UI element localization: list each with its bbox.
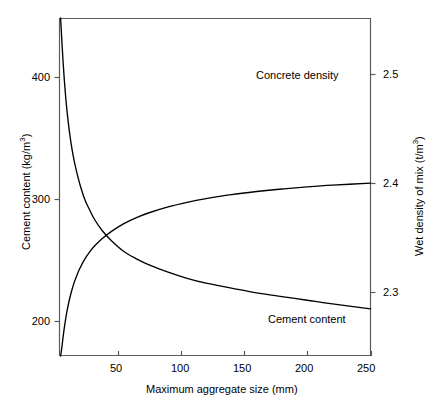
left-axis-ticks — [55, 78, 60, 322]
bottom-tick-label-100: 100 — [171, 362, 189, 374]
bottom-axis-title: Maximum aggregate size (mm) — [146, 383, 298, 395]
annotation-concrete-density: Concrete density — [256, 69, 339, 81]
bottom-tick-label-50: 50 — [110, 362, 122, 374]
bottom-tick-label-250: 250 — [357, 362, 375, 374]
chart-figure: 400 300 200 2.5 2.4 2.3 50 100 150 200 2… — [0, 0, 426, 410]
right-tick-label-2-5: 2.5 — [383, 68, 398, 80]
left-tick-label-400: 400 — [24, 71, 50, 83]
left-axis-title-text: Cement content (kg/m — [20, 142, 32, 250]
left-axis-title: Cement content (kg/m3) — [18, 134, 32, 250]
bottom-tick-label-150: 150 — [233, 362, 251, 374]
right-axis-title-text: Wet density of mix (t/m — [413, 144, 425, 256]
left-axis-title-exponent: 3 — [18, 137, 27, 141]
bottom-tick-label-200: 200 — [295, 362, 313, 374]
right-axis-title: Wet density of mix (t/m3) — [411, 136, 425, 256]
right-axis-ticks — [371, 75, 376, 293]
left-tick-label-200: 200 — [24, 315, 50, 327]
right-tick-label-2-3: 2.3 — [383, 286, 398, 298]
series-line-cement-content — [61, 18, 371, 309]
left-axis-title-close: ) — [20, 134, 32, 138]
plot-area — [0, 0, 426, 410]
right-axis-title-close: ) — [413, 136, 425, 140]
series-line-concrete-density — [61, 183, 371, 356]
right-tick-label-2-4: 2.4 — [383, 177, 398, 189]
right-axis-title-exponent: 3 — [411, 140, 420, 144]
annotation-cement-content: Cement content — [268, 313, 346, 325]
